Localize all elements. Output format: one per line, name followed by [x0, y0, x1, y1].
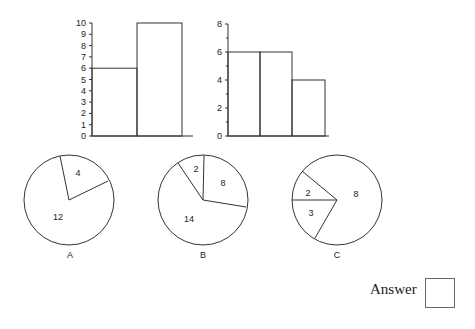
pie-C — [292, 155, 382, 245]
y-tick-labels-2: 0 2 4 6 8 — [217, 19, 222, 141]
y-tick-labels-1: 0 1 2 3 4 5 6 7 8 9 10 — [76, 18, 86, 141]
svg-text:2: 2 — [217, 103, 222, 113]
svg-text:6: 6 — [81, 63, 86, 73]
pie-B-slice-1: 2 — [193, 164, 198, 174]
figure: 0 1 2 3 4 5 6 7 8 9 10 0 2 4 6 8 4 12 A … — [0, 0, 475, 329]
answer-label: Answer — [370, 281, 417, 298]
pie-A-slice-2: 12 — [53, 212, 63, 222]
pie-C-slice-2: 3 — [308, 208, 313, 218]
bar-2 — [137, 23, 182, 136]
pie-C-slice-1: 2 — [305, 188, 310, 198]
bar-chart-1 — [89, 23, 193, 136]
pie-B-slice-2: 8 — [220, 178, 225, 188]
bar-3 — [292, 80, 325, 136]
svg-text:4: 4 — [81, 86, 86, 96]
svg-text:5: 5 — [81, 75, 86, 85]
bar-1 — [228, 52, 260, 136]
bar-chart-2 — [225, 24, 329, 136]
svg-text:4: 4 — [217, 75, 222, 85]
pie-A-slice-1: 4 — [75, 168, 80, 178]
svg-text:8: 8 — [81, 41, 86, 51]
svg-text:1: 1 — [81, 120, 86, 130]
svg-text:0: 0 — [217, 131, 222, 141]
bar-1 — [92, 68, 137, 136]
answer-input-box[interactable] — [425, 278, 455, 308]
svg-text:6: 6 — [217, 47, 222, 57]
svg-text:3: 3 — [81, 97, 86, 107]
pie-A-label: A — [67, 250, 73, 260]
pie-B-label: B — [200, 250, 206, 260]
pie-C-label: C — [334, 250, 341, 260]
svg-text:7: 7 — [81, 52, 86, 62]
pie-A — [24, 155, 114, 245]
pie-B-slice-3: 14 — [184, 214, 194, 224]
svg-text:10: 10 — [76, 18, 86, 28]
svg-text:0: 0 — [81, 131, 86, 141]
pie-B — [158, 155, 248, 245]
svg-text:8: 8 — [217, 19, 222, 29]
pie-C-slice-3: 8 — [353, 189, 358, 199]
bar-2 — [260, 52, 292, 136]
svg-text:9: 9 — [81, 29, 86, 39]
svg-text:2: 2 — [81, 108, 86, 118]
